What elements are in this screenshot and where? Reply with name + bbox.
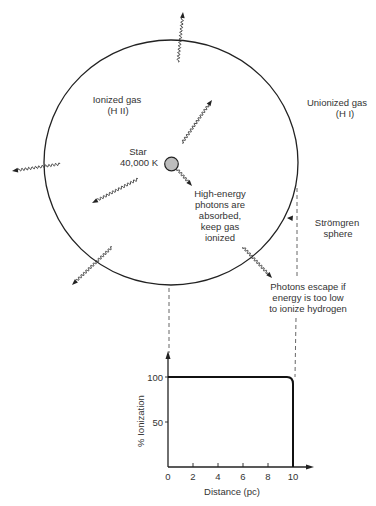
ionization-curve xyxy=(168,377,293,467)
projection-line-edge-lower xyxy=(295,318,296,377)
x-axis-arrow-icon xyxy=(306,465,314,470)
x-tick-label: 4 xyxy=(215,471,220,482)
ionization-chart: 100 50 0 2 4 6 8 10 Distance (pc) % Ioni… xyxy=(135,351,314,497)
star-icon xyxy=(165,157,179,171)
x-tick-label: 2 xyxy=(190,471,195,482)
note-line: absorbed, xyxy=(199,210,241,221)
y-tick-label: 100 xyxy=(147,372,163,383)
stromgren-sphere-figure: Ionized gas (H II) Unionized gas (H I) S… xyxy=(0,0,376,506)
boundary-pointer-icon xyxy=(287,216,293,222)
label-star: Star xyxy=(129,146,146,157)
label-ionized-gas: Ionized gas xyxy=(93,94,142,105)
y-tick-label: 50 xyxy=(152,417,163,428)
photon-arrow-escaping-left xyxy=(12,163,60,173)
photon-arrow-escaping-lower-left xyxy=(72,247,112,285)
escaping-photons-note: Photons escape if energy is too low to i… xyxy=(269,281,347,314)
note-line: keep gas xyxy=(201,221,240,232)
note-line: to ionize hydrogen xyxy=(269,303,347,314)
y-axis-title: % Ionization xyxy=(135,395,146,447)
y-axis-arrow-icon xyxy=(166,351,171,359)
label-line: Strömgren xyxy=(315,217,359,228)
x-tick-label: 10 xyxy=(288,471,299,482)
label-ionized-gas-symbol: (H II) xyxy=(107,105,128,116)
note-line: Photons escape if xyxy=(270,281,346,292)
photon-arrow-absorbed-upper-right xyxy=(182,100,212,143)
label-unionized-gas: Unionized gas xyxy=(307,97,367,108)
x-tick-label: 0 xyxy=(165,471,170,482)
label-line: sphere xyxy=(323,228,352,239)
x-tick-label: 6 xyxy=(240,471,245,482)
x-axis-title: Distance (pc) xyxy=(204,486,260,497)
photon-arrow-escaping-top xyxy=(177,12,185,62)
absorbed-photons-note: High-energy photons are absorbed, keep g… xyxy=(194,188,246,243)
label-unionized-gas-symbol: (H I) xyxy=(336,108,354,119)
stromgren-sphere-label: Strömgren sphere xyxy=(315,217,359,239)
photon-arrow-absorbed-left xyxy=(92,178,138,203)
sphere-diagram: Ionized gas (H II) Unionized gas (H I) S… xyxy=(12,12,367,377)
note-line: energy is too low xyxy=(272,292,343,303)
label-star-temperature: 40,000 K xyxy=(120,157,159,168)
x-tick-label: 8 xyxy=(265,471,270,482)
note-line: High-energy xyxy=(194,188,246,199)
photon-arrow-absorbed-short xyxy=(177,169,192,186)
note-line: ionized xyxy=(205,232,235,243)
note-line: photons are xyxy=(195,199,245,210)
